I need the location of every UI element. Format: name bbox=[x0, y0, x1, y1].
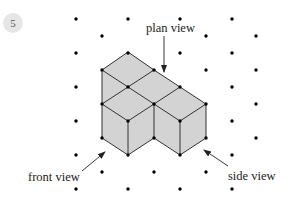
front-view-label: front view bbox=[28, 170, 80, 184]
side-view-arrow bbox=[204, 150, 228, 166]
side-view-label: side view bbox=[228, 169, 276, 183]
isometric-diagram: plan view front view side view bbox=[0, 0, 297, 199]
plan-view-label: plan view bbox=[146, 21, 195, 35]
front-view-arrow bbox=[82, 152, 105, 171]
